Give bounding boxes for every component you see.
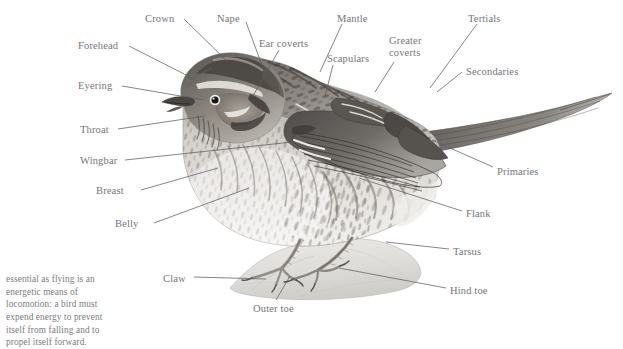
- leader-line-tarsus: [386, 242, 449, 249]
- label-greater-coverts-line-1: Greater: [389, 35, 422, 47]
- label-tertials: Tertials: [468, 13, 501, 25]
- label-primaries: Primaries: [497, 166, 539, 178]
- caption-paragraph: essential as flying is an energetic mean…: [6, 273, 114, 349]
- label-secondaries: Secondaries: [466, 66, 518, 78]
- label-nape: Nape: [217, 13, 240, 25]
- label-throat: Throat: [80, 124, 109, 136]
- label-mantle: Mantle: [337, 13, 368, 25]
- leader-line-primaries: [432, 140, 493, 167]
- label-hind-toe: Hind toe: [450, 285, 488, 297]
- leader-line-throat: [118, 116, 205, 129]
- label-greater-coverts-line-2: coverts: [389, 47, 422, 59]
- label-wingbar: Wingbar: [80, 155, 117, 167]
- label-greater-coverts: Greatercoverts: [389, 35, 422, 58]
- label-ear-coverts: Ear coverts: [259, 38, 308, 50]
- label-flank: Flank: [466, 208, 491, 220]
- leader-line-hind-toe: [339, 268, 446, 288]
- label-breast: Breast: [96, 185, 124, 197]
- leader-line-wingbar: [125, 142, 292, 160]
- leader-line-claw: [194, 277, 266, 279]
- leader-line-crown: [184, 19, 228, 62]
- label-crown: Crown: [145, 13, 174, 25]
- leader-line-flank: [359, 178, 462, 211]
- leader-line-greater-coverts: [375, 62, 394, 92]
- label-forehead: Forehead: [78, 40, 118, 52]
- label-belly: Belly: [115, 218, 139, 230]
- leader-line-mantle: [320, 24, 342, 72]
- leader-line-outer-toe: [276, 276, 290, 300]
- label-claw: Claw: [163, 273, 186, 285]
- label-scapulars: Scapulars: [327, 53, 369, 65]
- label-tarsus: Tarsus: [453, 246, 481, 258]
- label-eyering: Eyering: [78, 80, 112, 92]
- label-outer-toe: Outer toe: [253, 303, 294, 315]
- leader-line-secondaries: [437, 72, 462, 92]
- leader-line-ear-coverts: [253, 50, 279, 96]
- leader-line-scapulars: [325, 65, 333, 96]
- leader-line-eyering: [122, 86, 204, 100]
- leader-line-breast: [141, 168, 218, 190]
- leader-line-forehead: [129, 46, 196, 80]
- leader-line-belly: [154, 188, 249, 223]
- bird-topography-figure: CrownNapeMantleTertialsForeheadEar cover…: [0, 0, 623, 349]
